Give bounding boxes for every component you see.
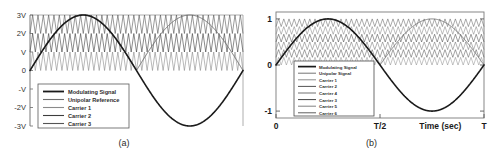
figure-container: 3V2VV0-V-2V-3VModulating SignalUnipolar … [0,0,495,161]
legend-label: Carrier 5 [319,104,338,109]
legend-label: Carrier 1 [319,78,338,83]
legend-label: Carrier 2 [319,84,338,89]
legend-label: Carrier 3 [319,98,338,103]
y-tick-label: -3V [14,122,26,131]
legend-label: Modulating Signal [319,65,357,70]
y-tick-label: 3V [17,11,26,20]
caption-b: (b) [248,138,495,148]
y-tick-label: 2V [17,29,26,38]
y-tick-label: -V [19,85,27,94]
legend-label: Carrier 6 [319,111,338,116]
y-tick-label: V [21,48,26,57]
y-tick-label: 0 [267,60,272,70]
x-axis-label: Time (sec) [419,121,461,131]
y-tick-label: 1 [267,14,272,24]
y-tick-label: -2V [14,103,26,112]
chart-b-canvas: 10-10T/2TTime (sec)Modulating SignalUnip… [248,0,495,138]
y-tick-label: -1 [264,106,272,116]
chart-a-canvas: 3V2VV0-V-2V-3VModulating SignalUnipolar … [0,0,248,138]
legend-label: Unipolar Signal [319,71,351,76]
x-tick-label: T/2 [374,121,387,131]
caption-a: (a) [0,138,248,148]
legend-label: Carrier 3 [68,121,91,127]
y-tick-label: 0 [22,66,26,75]
legend-label: Modulating Signal [68,89,117,95]
x-tick-label: 0 [274,121,279,131]
legend-label: Carrier 1 [68,105,91,111]
legend-label: Carrier 2 [68,113,91,119]
subplot-b: 10-10T/2TTime (sec)Modulating SignalUnip… [248,0,495,161]
subplot-a: 3V2VV0-V-2V-3VModulating SignalUnipolar … [0,0,248,161]
x-tick-label: T [481,121,487,131]
legend-label: Carrier 4 [319,91,338,96]
legend-label: Unipolar Reference [68,97,119,103]
